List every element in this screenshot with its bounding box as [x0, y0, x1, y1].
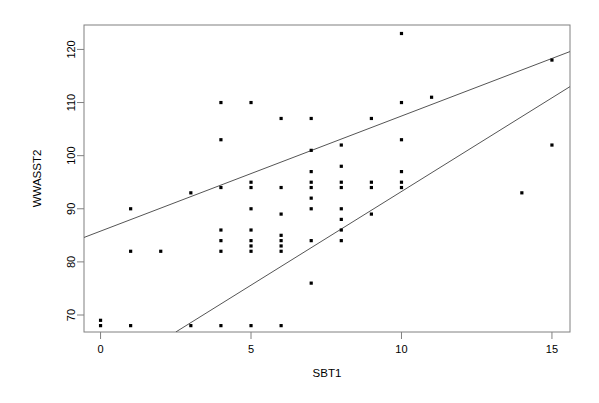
data-point [340, 165, 343, 168]
data-point [249, 228, 252, 231]
data-point [310, 197, 313, 200]
data-point [249, 101, 252, 104]
scatter-plot-figure: 051015708090100110120SBT1WWASST2 [0, 0, 599, 403]
y-axis-tick-label: 100 [65, 146, 77, 164]
y-axis-tick-label: 120 [65, 40, 77, 58]
data-point [310, 207, 313, 210]
data-point [99, 319, 102, 322]
data-point [550, 143, 553, 146]
data-point [340, 228, 343, 231]
data-point [400, 32, 403, 35]
data-point [249, 250, 252, 253]
data-point [219, 250, 222, 253]
plot-canvas: 051015708090100110120SBT1WWASST2 [0, 0, 599, 403]
data-point [430, 96, 433, 99]
data-point [280, 324, 283, 327]
data-point [310, 170, 313, 173]
y-axis-title: WWASST2 [31, 150, 43, 208]
data-point [400, 138, 403, 141]
data-point [310, 149, 313, 152]
data-point [310, 186, 313, 189]
x-axis-tick-label: 5 [248, 343, 254, 355]
x-axis-tick-label: 15 [546, 343, 558, 355]
data-point [159, 250, 162, 253]
data-point [249, 244, 252, 247]
data-point [249, 181, 252, 184]
data-point [340, 181, 343, 184]
data-point [219, 138, 222, 141]
data-point [249, 324, 252, 327]
data-point [340, 207, 343, 210]
data-point [370, 117, 373, 120]
data-point [280, 250, 283, 253]
data-point [280, 117, 283, 120]
data-point [249, 207, 252, 210]
data-point [370, 186, 373, 189]
y-axis-tick-label: 70 [65, 309, 77, 321]
x-axis-title: SBT1 [313, 367, 342, 379]
data-point [99, 324, 102, 327]
data-point [280, 234, 283, 237]
data-point [219, 186, 222, 189]
data-point [340, 218, 343, 221]
data-point [129, 250, 132, 253]
data-point [219, 239, 222, 242]
y-axis-tick-label: 90 [65, 203, 77, 215]
data-point [219, 324, 222, 327]
data-point [310, 181, 313, 184]
data-point [310, 282, 313, 285]
data-point [189, 324, 192, 327]
data-point [280, 239, 283, 242]
data-point [520, 191, 523, 194]
data-point [249, 239, 252, 242]
data-point [340, 143, 343, 146]
data-point [280, 186, 283, 189]
data-point [550, 58, 553, 61]
x-axis-tick-label: 10 [395, 343, 407, 355]
data-point [280, 212, 283, 215]
data-point [310, 239, 313, 242]
data-point [340, 239, 343, 242]
data-point [400, 170, 403, 173]
data-point [340, 186, 343, 189]
x-axis-tick-label: 0 [97, 343, 103, 355]
y-axis-tick-label: 110 [65, 94, 77, 112]
data-point [249, 186, 252, 189]
data-point [400, 181, 403, 184]
data-point [129, 207, 132, 210]
data-point [219, 101, 222, 104]
y-axis-tick-label: 80 [65, 256, 77, 268]
data-point [370, 181, 373, 184]
data-point [310, 117, 313, 120]
data-point [129, 324, 132, 327]
data-point [400, 186, 403, 189]
data-point [400, 101, 403, 104]
data-point [189, 191, 192, 194]
data-point [219, 228, 222, 231]
data-point [280, 244, 283, 247]
data-point [370, 212, 373, 215]
figure-background [0, 0, 599, 403]
